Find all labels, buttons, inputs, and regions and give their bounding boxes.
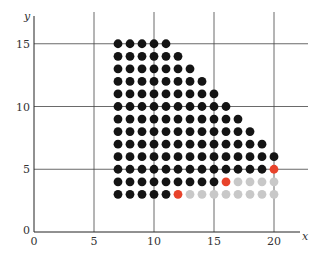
black-dot xyxy=(114,52,123,61)
black-dot xyxy=(222,140,231,149)
x-axis-label: x xyxy=(302,230,309,243)
black-dot xyxy=(126,177,135,186)
black-dot xyxy=(162,102,171,111)
black-dot xyxy=(114,64,123,73)
black-dot xyxy=(198,90,207,99)
black-dot xyxy=(186,64,195,73)
y-tick-label: 15 xyxy=(16,38,30,51)
black-dot xyxy=(126,52,135,61)
black-dot xyxy=(258,152,267,161)
black-dot xyxy=(162,64,171,73)
gray-dot xyxy=(270,190,279,199)
red-dot xyxy=(222,177,231,186)
black-dot xyxy=(162,152,171,161)
black-dot xyxy=(222,115,231,124)
black-dot xyxy=(138,165,147,174)
black-dot xyxy=(126,102,135,111)
black-dot xyxy=(114,127,123,136)
black-dot xyxy=(210,127,219,136)
y-tick-label: 0 xyxy=(23,224,30,237)
black-dot xyxy=(126,90,135,99)
red-dot xyxy=(174,190,183,199)
y-tick-label: 5 xyxy=(23,163,30,176)
gray-dot xyxy=(186,190,195,199)
gray-dot xyxy=(246,190,255,199)
black-dot xyxy=(114,77,123,86)
black-dot xyxy=(162,190,171,199)
black-dot xyxy=(174,102,183,111)
black-dot xyxy=(198,177,207,186)
black-dot xyxy=(150,115,159,124)
black-dot xyxy=(150,177,159,186)
black-dot xyxy=(162,127,171,136)
gray-dot xyxy=(246,177,255,186)
black-dot xyxy=(138,64,147,73)
black-dot xyxy=(174,64,183,73)
black-dot xyxy=(114,115,123,124)
black-dot xyxy=(210,177,219,186)
black-dot xyxy=(210,152,219,161)
black-dot xyxy=(234,152,243,161)
black-dot xyxy=(150,52,159,61)
black-dot xyxy=(174,140,183,149)
black-dot xyxy=(174,165,183,174)
black-dot xyxy=(162,39,171,48)
lattice-chart: 05101520510150xy xyxy=(0,0,325,259)
black-dot xyxy=(198,102,207,111)
black-dot xyxy=(198,152,207,161)
black-dot xyxy=(114,165,123,174)
black-dot xyxy=(126,77,135,86)
black-dot xyxy=(234,165,243,174)
black-dot xyxy=(114,152,123,161)
black-dot xyxy=(198,165,207,174)
black-dot xyxy=(198,115,207,124)
x-tick-label: 10 xyxy=(147,235,161,248)
black-dot xyxy=(150,190,159,199)
black-dot xyxy=(114,90,123,99)
black-dot xyxy=(126,165,135,174)
black-dot xyxy=(138,190,147,199)
black-dot xyxy=(114,190,123,199)
black-dot xyxy=(258,165,267,174)
x-tick-label: 20 xyxy=(267,235,281,248)
black-dot xyxy=(198,77,207,86)
black-dot xyxy=(246,165,255,174)
black-dot xyxy=(138,152,147,161)
black-dot xyxy=(186,140,195,149)
black-dot xyxy=(126,64,135,73)
black-dot xyxy=(162,165,171,174)
gray-dot xyxy=(234,190,243,199)
black-dot xyxy=(234,127,243,136)
black-dot xyxy=(174,115,183,124)
black-dot xyxy=(162,77,171,86)
black-dot xyxy=(138,77,147,86)
gray-dot xyxy=(234,177,243,186)
black-dot xyxy=(270,152,279,161)
black-dot xyxy=(126,127,135,136)
black-dot xyxy=(222,165,231,174)
black-dot xyxy=(174,77,183,86)
black-dot xyxy=(162,90,171,99)
gray-dot xyxy=(270,177,279,186)
x-tick-label: 0 xyxy=(31,235,38,248)
black-dot xyxy=(138,90,147,99)
black-dot xyxy=(246,152,255,161)
black-dot xyxy=(138,140,147,149)
black-dot xyxy=(138,177,147,186)
black-dot xyxy=(186,115,195,124)
black-dot xyxy=(174,152,183,161)
black-dot xyxy=(186,90,195,99)
black-dot xyxy=(138,52,147,61)
x-tick-label: 5 xyxy=(91,235,98,248)
black-dot xyxy=(174,177,183,186)
black-dot xyxy=(150,102,159,111)
black-dot xyxy=(234,140,243,149)
black-dot xyxy=(126,39,135,48)
black-dot xyxy=(198,127,207,136)
black-dot xyxy=(114,102,123,111)
black-dot xyxy=(210,115,219,124)
black-dot xyxy=(210,165,219,174)
gray-dot xyxy=(222,190,231,199)
black-dot xyxy=(246,127,255,136)
black-dot xyxy=(114,39,123,48)
